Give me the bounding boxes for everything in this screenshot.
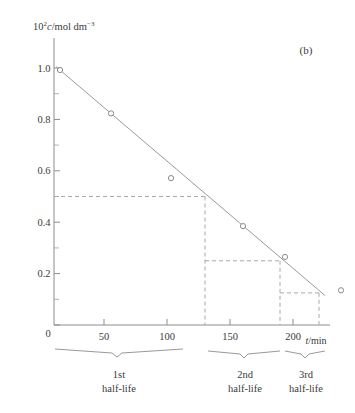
y-axis-title-units-exponent: −3 xyxy=(87,20,95,28)
construction-lines-group xyxy=(54,197,319,326)
data-series-line xyxy=(56,67,325,296)
brace-2nd-half-life xyxy=(208,351,280,358)
y-tick-label-0.8: 0.8 xyxy=(37,114,50,125)
x-axis-title-units: /min xyxy=(308,335,326,346)
data-point xyxy=(240,224,245,229)
data-point xyxy=(168,176,173,181)
brace-3rd-half-life xyxy=(285,351,325,358)
half-life-braces xyxy=(55,349,325,358)
panel-label: (b) xyxy=(300,44,313,57)
y-axis-tick-labels: 0 0.2 0.4 0.6 0.8 1.0 xyxy=(37,63,51,339)
x-tick-label-100: 100 xyxy=(159,331,175,342)
data-point xyxy=(57,67,62,72)
brace-2-label-line2: half-life xyxy=(228,383,262,394)
brace-labels: 1st half-life 2nd half-life 3rd half-lif… xyxy=(102,369,323,394)
data-point xyxy=(108,111,113,116)
y-tick-label-1.0: 1.0 xyxy=(37,63,50,74)
brace-2-label-line1: 2nd xyxy=(237,369,254,380)
y-tick-label-0.4: 0.4 xyxy=(37,217,51,228)
y-axis-title-prefix: 10 xyxy=(33,21,44,32)
data-point xyxy=(282,254,287,259)
kinetics-plot: 0 0.2 0.4 0.6 0.8 1.0 102c/mol dm−3 50 1… xyxy=(0,0,355,413)
figure-panel-b: 0 0.2 0.4 0.6 0.8 1.0 102c/mol dm−3 50 1… xyxy=(0,0,355,413)
axes-group xyxy=(54,38,330,325)
y-axis-title: 102c/mol dm−3 xyxy=(33,20,95,32)
y-tick-label-0: 0 xyxy=(45,328,50,339)
x-axis-ticks xyxy=(104,319,293,325)
x-tick-label-50: 50 xyxy=(99,331,110,342)
brace-3-label-line2: half-life xyxy=(289,383,323,394)
x-tick-label-150: 150 xyxy=(222,331,238,342)
x-axis-tick-labels: 50 100 150 200 xyxy=(99,331,301,342)
x-axis-title: t/min xyxy=(305,335,326,346)
x-tick-label-200: 200 xyxy=(285,331,301,342)
brace-3-label-line1: 3rd xyxy=(299,369,314,380)
svg-text:102c/mol dm−3: 102c/mol dm−3 xyxy=(33,20,95,32)
y-tick-label-0.6: 0.6 xyxy=(37,165,50,176)
data-point xyxy=(338,288,343,293)
brace-1st-half-life xyxy=(55,349,183,357)
y-axis-title-units: /mol dm xyxy=(52,21,87,32)
brace-1-label-line2: half-life xyxy=(102,383,136,394)
y-tick-label-0.2: 0.2 xyxy=(37,268,50,279)
brace-1-label-line1: 1st xyxy=(113,369,125,380)
svg-text:t/min: t/min xyxy=(305,335,326,346)
data-point-markers xyxy=(57,67,343,293)
